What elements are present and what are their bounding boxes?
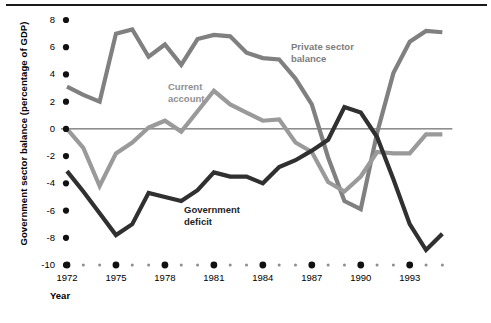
- x-minor-tick-dot-12: [376, 264, 379, 267]
- x-tick-label-4: 1984: [243, 273, 283, 283]
- x-tick-label-5: 1987: [292, 273, 332, 283]
- y-tick-dot-4: [63, 126, 69, 132]
- x-tick-dot-5: [308, 262, 315, 269]
- x-tick-label-1: 1975: [96, 273, 136, 283]
- y-tick-dot-0: [63, 17, 69, 23]
- y-tick-dot-2: [63, 71, 69, 77]
- y-tick-dot-5: [63, 153, 69, 159]
- x-minor-tick-dot-13: [392, 264, 395, 267]
- x-minor-tick-dot-9: [294, 264, 297, 267]
- series-annotation-0: Private sector balance: [291, 41, 354, 64]
- chart-figure: Government sector balance (percentage of…: [0, 0, 491, 323]
- x-tick-dot-7: [406, 262, 413, 269]
- y-tick-dot-7: [63, 207, 69, 213]
- y-tick-dot-8: [63, 235, 69, 241]
- x-tick-dot-1: [113, 262, 120, 269]
- x-tick-label-6: 1990: [341, 273, 381, 283]
- x-minor-tick-dot-8: [278, 264, 281, 267]
- series-annotation-2: Government deficit: [184, 204, 240, 227]
- y-tick-dot-1: [63, 44, 69, 50]
- x-tick-dot-0: [64, 262, 71, 269]
- x-axis-title: Year: [50, 290, 70, 301]
- x-minor-tick-dot-7: [245, 264, 248, 267]
- x-minor-tick-dot-2: [131, 264, 134, 267]
- x-minor-tick-dot-5: [196, 264, 199, 267]
- x-tick-dot-6: [357, 262, 364, 269]
- series-annotation-1: Current account: [168, 81, 204, 104]
- x-minor-tick-dot-11: [343, 264, 346, 267]
- x-tick-label-3: 1981: [194, 273, 234, 283]
- x-minor-tick-dot-10: [327, 264, 330, 267]
- x-tick-dot-4: [259, 262, 266, 269]
- x-tick-label-0: 1972: [47, 273, 87, 283]
- x-tick-dot-3: [210, 262, 217, 269]
- x-minor-tick-dot-6: [229, 264, 232, 267]
- x-tick-label-2: 1978: [145, 273, 185, 283]
- y-tick-dot-3: [63, 99, 69, 105]
- series-line-0: [67, 30, 442, 210]
- x-tick-label-7: 1993: [390, 273, 430, 283]
- x-tick-dot-2: [162, 262, 169, 269]
- x-minor-tick-dot-15: [441, 264, 444, 267]
- x-minor-tick-dot-1: [98, 264, 101, 267]
- x-minor-tick-dot-3: [147, 264, 150, 267]
- x-minor-tick-dot-4: [180, 264, 183, 267]
- x-minor-tick-dot-14: [425, 264, 428, 267]
- x-minor-tick-dot-0: [82, 264, 85, 267]
- y-tick-dot-6: [63, 180, 69, 186]
